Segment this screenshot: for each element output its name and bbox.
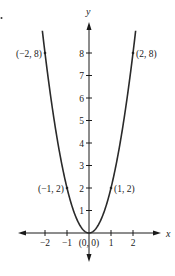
point-marker: [132, 52, 135, 55]
y-tick-label: 5: [79, 116, 84, 126]
ticks: −2−11212345678: [40, 49, 136, 249]
x-tick-label: −1: [62, 238, 72, 248]
x-axis-label: x: [165, 228, 171, 239]
point-marker: [110, 187, 113, 190]
y-axis-down-arrow-icon: [87, 254, 92, 262]
x-tick-label: 2: [131, 238, 136, 248]
y-axis-up-arrow-icon: [87, 22, 92, 30]
point-label: (−2, 8): [16, 49, 42, 60]
point-label: (0, 0): [79, 238, 100, 249]
y-tick-label: 7: [79, 71, 84, 81]
x-axis-left-arrow-icon: [18, 231, 26, 236]
y-tick-label: 6: [79, 94, 84, 104]
point-marker: [44, 52, 47, 55]
point-label: (1, 2): [114, 184, 135, 195]
y-tick-label: 8: [79, 49, 84, 59]
annotated-points: (−2, 8)(2, 8)(−1, 2)(1, 2)(0, 0): [16, 49, 157, 250]
parabola-chart: −2−11212345678 (−2, 8)(2, 8)(−1, 2)(1, 2…: [0, 0, 175, 276]
point-marker: [66, 187, 69, 190]
x-tick-label: 1: [109, 238, 114, 248]
point-label: (−1, 2): [38, 184, 64, 195]
x-axis-right-arrow-icon: [153, 231, 161, 236]
y-tick-label: 2: [79, 184, 84, 194]
x-tick-label: −2: [40, 238, 50, 248]
y-tick-label: 1: [79, 206, 84, 216]
y-tick-label: 3: [79, 161, 84, 171]
list-bullet: [1, 17, 3, 19]
y-axis-label: y: [85, 6, 91, 17]
y-tick-label: 4: [79, 139, 84, 149]
point-label: (2, 8): [136, 49, 157, 60]
